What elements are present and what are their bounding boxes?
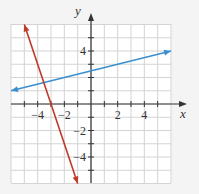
x-axis-label: x — [179, 106, 186, 121]
x-tick-label: 4 — [141, 108, 147, 122]
y-axis-label: y — [73, 3, 81, 18]
x-tick-label: 2 — [115, 108, 121, 122]
y-tick-label: 4 — [80, 44, 86, 58]
y-tick-label: −2 — [73, 124, 86, 138]
x-tick-label: −4 — [31, 108, 44, 122]
coordinate-plane-chart: −4−2244−2−4 x y — [0, 0, 199, 194]
y-tick-label: −4 — [73, 150, 86, 164]
x-tick-label: −2 — [58, 108, 71, 122]
